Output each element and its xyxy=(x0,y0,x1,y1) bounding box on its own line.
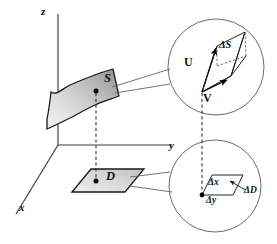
vector-u-label: U xyxy=(184,56,193,68)
callout-leader-upper xyxy=(112,69,170,93)
y-axis-label: y xyxy=(169,140,174,151)
surface-label: S xyxy=(104,72,111,85)
x-axis-label: x xyxy=(19,202,25,213)
delta-x-label: Δx xyxy=(208,178,219,188)
domain-label: D xyxy=(106,170,115,183)
domain-sample-point xyxy=(94,179,99,184)
z-axis-label: z xyxy=(41,6,45,17)
surface-sample-point xyxy=(94,89,99,94)
delta-y-label: Δy xyxy=(206,196,216,206)
domain-element-vertex xyxy=(200,193,205,198)
figure-canvas: z y x S D U V ΔS Δx Δy ΔD xyxy=(0,0,277,244)
vector-v-label: V xyxy=(203,92,212,104)
upper-magnifier-circle xyxy=(168,19,264,115)
upper-magnifier xyxy=(168,19,264,140)
delta-s-label: ΔS xyxy=(219,40,231,51)
delta-d-label: ΔD xyxy=(244,186,257,196)
figure-vector-graphics xyxy=(0,0,277,244)
